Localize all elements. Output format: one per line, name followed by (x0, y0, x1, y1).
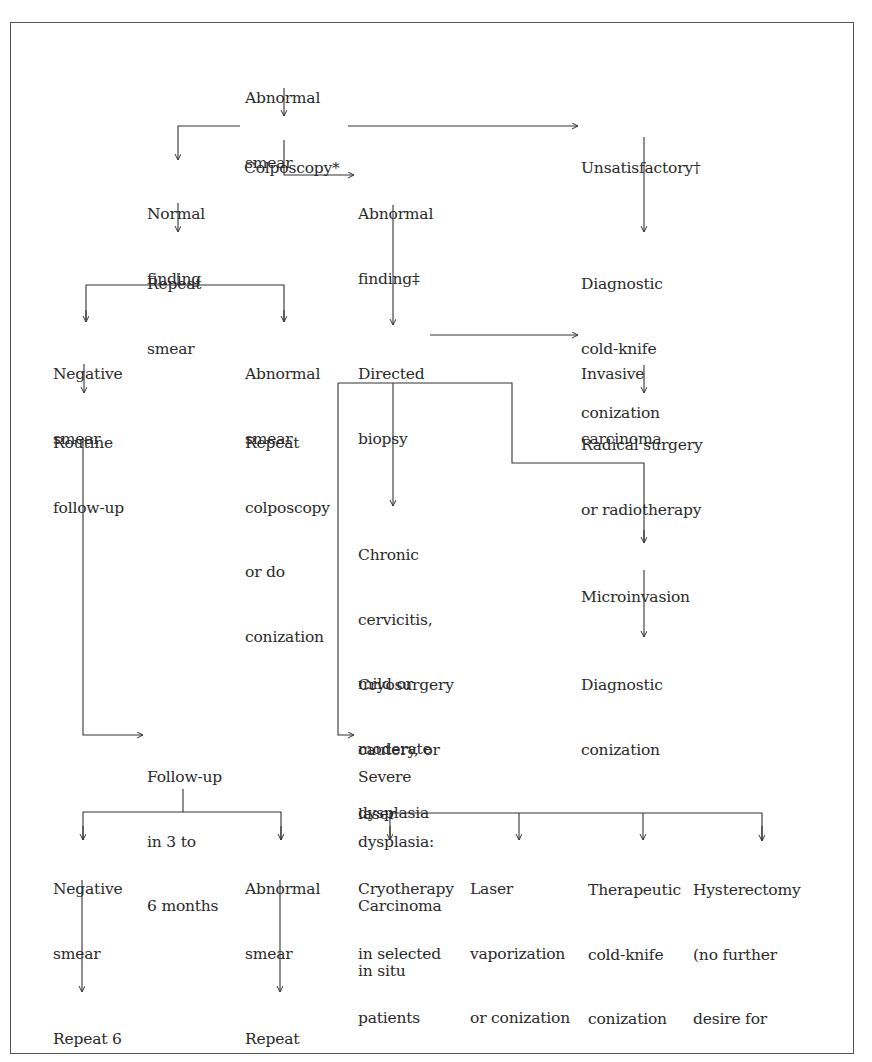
node-laser-vaporization: Laser vaporization or conization (470, 836, 570, 1051)
node-repeat-colposcopy-or-conization: Repeat colposcopy or do conization (245, 390, 330, 670)
node-repeat-colposcopy: Repeat colposcopy (245, 986, 330, 1062)
node-follow-up-3-to-6-months: Follow-up in 3 to 6 months (147, 724, 222, 939)
node-repeat-smear: Repeat smear (147, 231, 201, 382)
node-unsatisfactory: Unsatisfactory† (581, 115, 701, 201)
node-colposcopy: Colposcopy* (244, 115, 340, 201)
node-microinvasion: Microinvasion (581, 544, 690, 630)
node-radical-surgery: Radical surgery or radiotherapy (581, 392, 703, 543)
node-cryotherapy: Cryotherapy in selected patients (small … (358, 836, 454, 1062)
node-repeat-6-months: Repeat 6 months (53, 986, 122, 1062)
node-abnormal-finding: Abnormal finding‡ (358, 161, 433, 312)
node-hysterectomy: Hysterectomy (no further desire for chil… (693, 837, 801, 1062)
node-routine-follow-up: Routine follow-up (53, 390, 124, 541)
node-diagnostic-conization: Diagnostic conization (581, 632, 663, 783)
node-negative-smear-2: Negative smear (53, 836, 122, 987)
node-therapeutic-cold-knife: Therapeutic cold-knife conization (588, 837, 681, 1052)
node-directed-biopsy: Directed biopsy (358, 321, 424, 472)
node-abnormal-smear-2: Abnormal smear (245, 836, 320, 987)
